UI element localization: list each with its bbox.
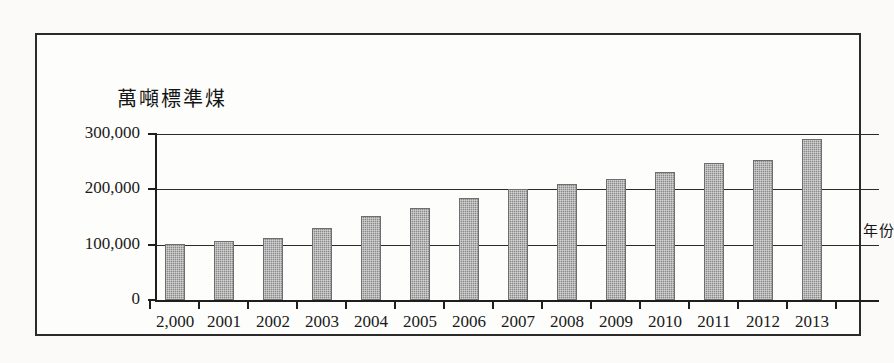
y-axis-tick <box>148 188 157 190</box>
x-axis-tick-label: 2008 <box>541 312 593 332</box>
plot-area: 0100,000200,000300,000 2,000200120022003… <box>155 134 879 300</box>
gridline <box>155 134 879 135</box>
x-axis-tick-label: 2005 <box>394 312 446 332</box>
x-axis-tick <box>296 300 298 309</box>
y-axis-tick <box>148 244 157 246</box>
bar <box>312 228 332 300</box>
x-axis-tick <box>786 300 788 309</box>
x-axis-tick <box>541 300 543 309</box>
bar <box>655 172 675 300</box>
x-axis-tick-label: 2011 <box>688 312 740 332</box>
y-axis-tick <box>148 133 157 135</box>
x-axis-tick <box>835 300 837 309</box>
y-axis-tick-label: 300,000 <box>45 123 140 143</box>
x-axis-tick <box>688 300 690 309</box>
bar <box>214 241 234 300</box>
x-axis-tick <box>443 300 445 309</box>
bar <box>361 216 381 300</box>
x-axis-tick <box>198 300 200 309</box>
x-axis-tick-label: 2006 <box>443 312 495 332</box>
x-axis-tick-label: 2012 <box>737 312 789 332</box>
x-axis-tick-label: 2010 <box>639 312 691 332</box>
x-axis-tick-label: 2002 <box>247 312 299 332</box>
y-axis-tick-label: 100,000 <box>45 234 140 254</box>
bar <box>802 139 822 300</box>
bar <box>704 163 724 300</box>
x-axis-tick-label: 2013 <box>786 312 838 332</box>
x-axis-tick-label: 2009 <box>590 312 642 332</box>
x-axis-tick <box>247 300 249 309</box>
x-axis-tick <box>394 300 396 309</box>
page-background: 萬噸標準煤 年份 0100,000200,000300,000 2,000200… <box>0 0 894 363</box>
x-axis-tick <box>737 300 739 309</box>
x-axis-tick-label: 2001 <box>198 312 250 332</box>
y-axis-tick-label: 200,000 <box>45 178 140 198</box>
y-axis-tick-label: 0 <box>45 289 140 309</box>
bar <box>263 238 283 300</box>
x-axis-tick-label: 2003 <box>296 312 348 332</box>
x-axis-tick-label: 2004 <box>345 312 397 332</box>
y-axis-line <box>155 134 157 300</box>
x-axis-tick-label: 2,000 <box>149 312 201 332</box>
bar <box>606 179 626 300</box>
bar <box>410 208 430 300</box>
x-axis-tick-label: 2007 <box>492 312 544 332</box>
chart-frame: 萬噸標準煤 年份 0100,000200,000300,000 2,000200… <box>35 33 861 336</box>
x-axis-tick <box>345 300 347 309</box>
x-axis-tick <box>639 300 641 309</box>
bar <box>165 244 185 300</box>
bar <box>508 189 528 300</box>
x-axis-tick <box>590 300 592 309</box>
bar <box>459 198 479 300</box>
bar <box>753 160 773 300</box>
x-axis-line <box>155 300 879 302</box>
bar <box>557 184 577 300</box>
x-axis-tick <box>492 300 494 309</box>
x-axis-tick <box>149 300 151 309</box>
y-axis-unit-label: 萬噸標準煤 <box>117 83 227 112</box>
